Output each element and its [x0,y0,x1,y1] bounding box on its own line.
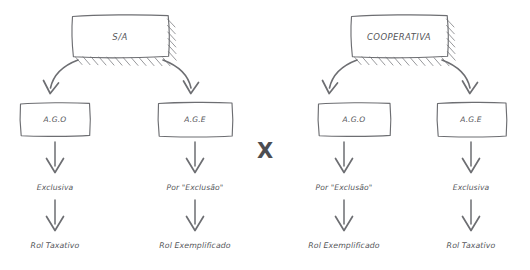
sa-age-arrow-down-2 [187,200,204,231]
sa-ago-label: A.G.O [43,115,67,124]
group-cooperativa: COOPERATIVA A.G.O A.G.E Por "Exc [308,15,506,250]
coop-ago-arrow-down-1 [336,142,353,173]
coop-age-arrow-down-2 [463,200,480,231]
sa-root-label: S/A [112,32,127,42]
coop-ago-label: A.G.O [342,115,366,124]
coop-root-shadow [354,19,455,66]
coop-root-label: COOPERATIVA [367,32,431,42]
sa-ago-arrow-down-2 [47,200,64,231]
coop-ago-criterion: Por "Exclusão" [316,183,373,192]
sa-root-shadow [75,19,176,66]
sa-ago-outcome: Rol Taxativo [31,241,80,250]
sa-age-outcome: Rol Exemplificado [159,241,231,250]
sa-arrow-to-age [163,60,199,94]
coop-arrow-to-ago [323,60,358,94]
sa-age-label: A.G.E [183,115,206,124]
coop-age-criterion: Exclusiva [453,183,490,192]
coop-age-outcome: Rol Taxativo [447,241,496,250]
sa-age-criterion: Por "Exclusão" [167,183,224,192]
coop-ago-outcome: Rol Exemplificado [308,241,380,250]
divider-x-icon: X [257,139,273,163]
coop-arrow-to-age [442,60,478,94]
group-sa: S/A A.G.O A.G.E Exclusiva [20,15,232,250]
coop-age-label: A.G.E [459,115,482,124]
sa-ago-criterion: Exclusiva [37,183,74,192]
coop-age-arrow-down-1 [463,142,480,173]
flowchart-diagram: S/A A.G.O A.G.E Exclusiva [0,0,530,270]
sa-ago-arrow-down-1 [47,142,64,173]
sa-arrow-to-ago [44,60,79,94]
sa-age-arrow-down-1 [187,142,204,173]
coop-ago-arrow-down-2 [336,200,353,231]
